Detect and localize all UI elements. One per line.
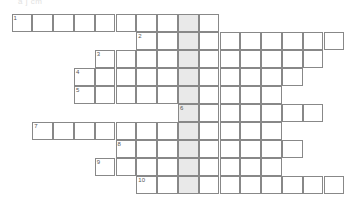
crossword-cell[interactable] xyxy=(53,122,74,140)
crossword-cell[interactable] xyxy=(261,86,282,104)
crossword-cell[interactable] xyxy=(157,14,178,32)
crossword-cell[interactable] xyxy=(136,140,157,158)
crossword-cell[interactable] xyxy=(136,68,157,86)
crossword-cell[interactable] xyxy=(220,32,241,50)
crossword-cell[interactable] xyxy=(220,68,241,86)
crossword-cell[interactable] xyxy=(199,122,220,140)
crossword-cell[interactable] xyxy=(324,32,344,50)
crossword-cell[interactable] xyxy=(240,176,261,194)
crossword-cell[interactable] xyxy=(240,158,261,176)
crossword-cell[interactable] xyxy=(199,176,220,194)
crossword-cell[interactable] xyxy=(240,50,261,68)
crossword-cell[interactable] xyxy=(157,122,178,140)
crossword-cell[interactable] xyxy=(199,32,220,50)
crossword-cell[interactable]: 5 xyxy=(74,86,95,104)
crossword-cell[interactable] xyxy=(199,50,220,68)
crossword-cell[interactable] xyxy=(74,122,95,140)
crossword-cell[interactable] xyxy=(261,122,282,140)
crossword-cell[interactable] xyxy=(220,122,241,140)
crossword-cell[interactable] xyxy=(178,68,199,86)
crossword-cell[interactable] xyxy=(95,68,116,86)
crossword-cell[interactable] xyxy=(261,68,282,86)
crossword-cell[interactable] xyxy=(240,122,261,140)
crossword-cell[interactable] xyxy=(95,86,116,104)
crossword-cell[interactable] xyxy=(136,50,157,68)
crossword-cell[interactable] xyxy=(199,68,220,86)
crossword-cell[interactable]: 1 xyxy=(12,14,33,32)
crossword-cell[interactable] xyxy=(261,140,282,158)
crossword-cell[interactable] xyxy=(282,176,303,194)
crossword-cell[interactable] xyxy=(240,32,261,50)
crossword-cell[interactable] xyxy=(199,158,220,176)
crossword-cell[interactable] xyxy=(303,104,324,122)
crossword-cell[interactable] xyxy=(220,104,241,122)
crossword-cell[interactable] xyxy=(220,50,241,68)
crossword-cell[interactable]: 8 xyxy=(116,140,137,158)
crossword-cell[interactable]: 10 xyxy=(136,176,157,194)
crossword-cell[interactable] xyxy=(32,14,53,32)
crossword-cell[interactable] xyxy=(261,32,282,50)
crossword-cell[interactable] xyxy=(157,68,178,86)
crossword-cell[interactable] xyxy=(157,32,178,50)
crossword-cell[interactable] xyxy=(95,122,116,140)
crossword-cell[interactable]: 4 xyxy=(74,68,95,86)
crossword-cell[interactable] xyxy=(324,176,344,194)
crossword-cell[interactable] xyxy=(178,158,199,176)
crossword-cell[interactable] xyxy=(240,68,261,86)
crossword-cell[interactable] xyxy=(240,140,261,158)
crossword-cell[interactable]: 9 xyxy=(95,158,116,176)
crossword-cell[interactable]: 6 xyxy=(178,104,199,122)
crossword-cell[interactable] xyxy=(303,32,324,50)
crossword-cell[interactable] xyxy=(199,14,220,32)
crossword-cell[interactable] xyxy=(157,86,178,104)
crossword-cell[interactable] xyxy=(136,86,157,104)
crossword-cell[interactable] xyxy=(199,104,220,122)
crossword-cell[interactable] xyxy=(116,50,137,68)
crossword-cell[interactable] xyxy=(53,14,74,32)
crossword-cell[interactable] xyxy=(136,158,157,176)
crossword-cell[interactable] xyxy=(199,140,220,158)
crossword-cell[interactable] xyxy=(220,158,241,176)
crossword-cell[interactable] xyxy=(157,140,178,158)
crossword-cell[interactable] xyxy=(116,122,137,140)
crossword-cell[interactable] xyxy=(178,50,199,68)
crossword-cell[interactable] xyxy=(178,140,199,158)
crossword-cell[interactable] xyxy=(157,50,178,68)
crossword-cell[interactable] xyxy=(261,104,282,122)
crossword-cell[interactable] xyxy=(74,14,95,32)
crossword-cell[interactable] xyxy=(136,122,157,140)
crossword-cell[interactable] xyxy=(178,122,199,140)
crossword-cell[interactable] xyxy=(282,68,303,86)
crossword-cell[interactable] xyxy=(282,140,303,158)
crossword-cell[interactable] xyxy=(282,50,303,68)
crossword-cell[interactable] xyxy=(116,68,137,86)
crossword-cell[interactable] xyxy=(178,176,199,194)
crossword-cell[interactable] xyxy=(116,14,137,32)
crossword-cell[interactable]: 3 xyxy=(95,50,116,68)
crossword-cell[interactable] xyxy=(240,86,261,104)
crossword-cell[interactable] xyxy=(178,14,199,32)
crossword-cell[interactable] xyxy=(220,176,241,194)
crossword-cell[interactable] xyxy=(303,50,324,68)
crossword-cell[interactable]: 2 xyxy=(136,32,157,50)
crossword-cell[interactable] xyxy=(95,14,116,32)
crossword-cell[interactable] xyxy=(261,158,282,176)
crossword-cell[interactable] xyxy=(261,176,282,194)
crossword-cell[interactable] xyxy=(178,32,199,50)
crossword-cell[interactable] xyxy=(220,86,241,104)
crossword-cell[interactable] xyxy=(116,86,137,104)
crossword-cell[interactable] xyxy=(282,104,303,122)
crossword-cell[interactable] xyxy=(303,176,324,194)
crossword-cell[interactable] xyxy=(282,32,303,50)
crossword-cell[interactable] xyxy=(220,140,241,158)
crossword-cell[interactable] xyxy=(157,176,178,194)
crossword-cell[interactable] xyxy=(136,14,157,32)
crossword-cell[interactable] xyxy=(261,50,282,68)
crossword-cell[interactable] xyxy=(157,158,178,176)
crossword-cell[interactable] xyxy=(199,86,220,104)
crossword-cell[interactable]: 7 xyxy=(32,122,53,140)
crossword-cell[interactable] xyxy=(116,158,137,176)
crossword-cell[interactable] xyxy=(178,86,199,104)
crossword-cell[interactable] xyxy=(240,104,261,122)
